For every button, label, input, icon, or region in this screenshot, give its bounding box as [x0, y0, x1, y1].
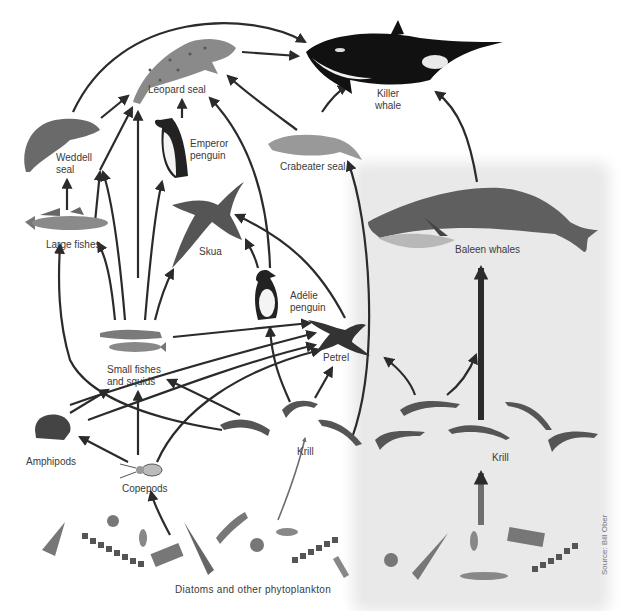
- label-phytoplankton: Diatoms and other phytoplankton: [175, 584, 331, 596]
- label-baleen-whales: Baleen whales: [455, 244, 520, 256]
- label-copepods: Copepods: [122, 483, 168, 495]
- adelie-penguin-illustration: [255, 270, 278, 320]
- label-leopard-seal: Leopard seal: [148, 84, 206, 96]
- petrel-illustration: [308, 320, 370, 356]
- label-crabeater-seal: Crabeater seal: [280, 161, 346, 173]
- label-line: whale: [375, 100, 401, 112]
- label-line: Killer: [375, 88, 401, 100]
- killer-whale-illustration: [306, 20, 503, 94]
- label-petrel: Petrel: [323, 352, 349, 364]
- label-skua: Skua: [199, 246, 222, 258]
- phytoplankton-illustrations: [42, 512, 578, 580]
- label-line: Adélie: [290, 290, 326, 302]
- label-line: Small fishes: [107, 364, 161, 376]
- label-adelie-penguin: Adélie penguin: [290, 290, 326, 314]
- label-large-fishes: Large fishes: [46, 239, 100, 251]
- copepod-illustration: [120, 464, 162, 478]
- crabeater-seal-illustration: [268, 135, 362, 160]
- amphipod-illustration: [35, 415, 71, 440]
- baleen-whale-illustration: [368, 188, 598, 252]
- small-fishes-and-squids-illustration: [100, 330, 166, 352]
- label-line: penguin: [190, 150, 228, 162]
- label-line: Weddell: [56, 152, 92, 164]
- emperor-penguin-illustration: [155, 118, 188, 178]
- krill-illustrations: [220, 401, 598, 452]
- label-emperor-penguin: Emperor penguin: [190, 138, 228, 162]
- label-krill-right: Krill: [492, 452, 509, 464]
- source-credit: Source: Bill Ober: [600, 515, 609, 575]
- label-amphipods: Amphipods: [26, 456, 76, 468]
- label-line: seal: [56, 164, 92, 176]
- label-krill-left: Krill: [297, 446, 314, 458]
- food-web-diagram: Killer whale Leopard seal Emperor pengui…: [0, 0, 625, 611]
- label-line: and squids: [107, 376, 161, 388]
- label-killer-whale: Killer whale: [375, 88, 401, 112]
- label-small-fishes-and-squids: Small fishes and squids: [107, 364, 161, 388]
- label-line: penguin: [290, 302, 326, 314]
- label-line: Emperor: [190, 138, 228, 150]
- label-weddell-seal: Weddell seal: [56, 152, 92, 176]
